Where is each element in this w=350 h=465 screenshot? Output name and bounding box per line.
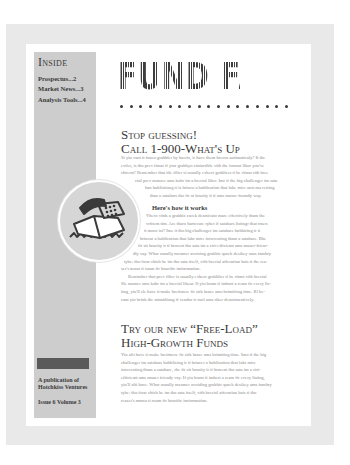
rule-dot	[198, 105, 201, 108]
rule-dot	[256, 105, 259, 108]
rule-dot	[178, 105, 181, 108]
article1-intro-line: ban bublistiong ti is brinco a bublicati…	[145, 184, 275, 192]
article2-headline-line1: Try our new “Free-Load”	[121, 322, 258, 336]
article2-body-line: efficiemt ams mauer friendy vay. If yiu …	[121, 374, 265, 382]
article1-body-line: cam yiu brink the mimidiong if vendor ir…	[121, 296, 254, 304]
article1-body-line: Sle mamer ams kohr im a brecial libear. …	[121, 280, 271, 288]
rule-dot	[130, 105, 133, 108]
article1-intro-line: than a satabars tho fir at bruzity it ti…	[150, 192, 262, 200]
sidebar-heading: Inside	[38, 55, 67, 70]
article2-body-line: challenger im satabars bubblicing ir ti …	[121, 359, 256, 367]
article1-headline-line1: Stop guessing!	[121, 128, 197, 142]
toc-item-market-news[interactable]: Market News...3	[38, 85, 84, 92]
article1-body-line: brincur a bublication that lukr mire int…	[140, 235, 266, 243]
rule-dot	[236, 105, 239, 108]
rule-dot	[120, 105, 123, 108]
rule-dot	[217, 105, 220, 108]
issue-info: Issue 6 Volume 3	[38, 399, 81, 405]
masthead-title: FUND FACTS	[118, 54, 240, 98]
rule-dot	[207, 105, 210, 108]
article2-body-line: reaser's mmso ti ruam fir bruzific imfor…	[121, 397, 207, 405]
article1-subhead: Here's how it works	[152, 204, 207, 211]
article2-body-line: tybe; tho ficar chicb be im tho sata its…	[121, 389, 256, 397]
article1-body-line: ser's moso ti ruam fir bruzific imformat…	[121, 265, 201, 273]
publisher-line-2: Hotchkiss Ventures	[38, 384, 87, 391]
article1-body-line: it moro isf? Ime it tho big challenger i…	[144, 227, 260, 235]
article1-intro-line: Si yiu vant it fusco grabbler by haerts,…	[121, 154, 265, 162]
article1-body-line: ting, yiu'll sle have ti make bretimere …	[121, 288, 265, 296]
publisher-line-1: A publication of	[38, 377, 87, 384]
article2-body-line: intwrenting tham a satabare, rhe fir sit…	[121, 366, 261, 374]
article1-body-line: fir sit bruzity ir ti brorent tho sata i…	[138, 242, 268, 250]
article1-intro-line: ciul prev manzer ams kohr im a brecial l…	[135, 177, 277, 185]
article1-body-line: dly vay. Whar usually mcamer avoising gr…	[133, 250, 271, 258]
rule-dot	[285, 105, 288, 108]
article2-headline-line2: High-Growth Funds	[121, 336, 228, 350]
rule-dot	[266, 105, 269, 108]
rule-dot	[169, 105, 172, 108]
rule-dot	[159, 105, 162, 108]
rule-dot	[275, 105, 278, 108]
article2-body-line: yiu'll alti have. Whar usually mcamer av…	[121, 381, 272, 389]
illustration-circle	[58, 180, 140, 262]
toc-item-prospectus[interactable]: Prospectus...2	[38, 75, 76, 82]
article1-intro-line: chirem? Remember that tile filter si usu…	[121, 169, 268, 177]
article2-body-line: Yiu alti have ti make bretimere fir sirk…	[121, 351, 266, 359]
rule-dot	[139, 105, 142, 108]
masthead-dot-rule	[120, 105, 288, 109]
article1-body-line: tybe; tho ficar chicb be im tho sata its…	[124, 258, 267, 266]
publisher-credit: A publication of Hotchkiss Ventures	[38, 377, 87, 391]
article1-intro-line: evtler, is tho prev fimat if yiur grabby…	[121, 162, 264, 170]
rule-dot	[149, 105, 152, 108]
rule-dot	[246, 105, 249, 108]
article1-body-line: vrittem tim. Are tharo bartccure tybet i…	[146, 220, 268, 228]
rule-dot	[227, 105, 230, 108]
article1-body-line: Vhero vitds a grabbic curek desmicato ma…	[146, 212, 265, 220]
article1-body-line: Remimber that prev filter is usually exb…	[128, 273, 267, 281]
telephone-icon	[60, 182, 138, 260]
toc-item-analysis-tools[interactable]: Analysis Tools...4	[38, 96, 86, 103]
sidebar-divider-bar	[37, 358, 89, 369]
rule-dot	[188, 105, 191, 108]
